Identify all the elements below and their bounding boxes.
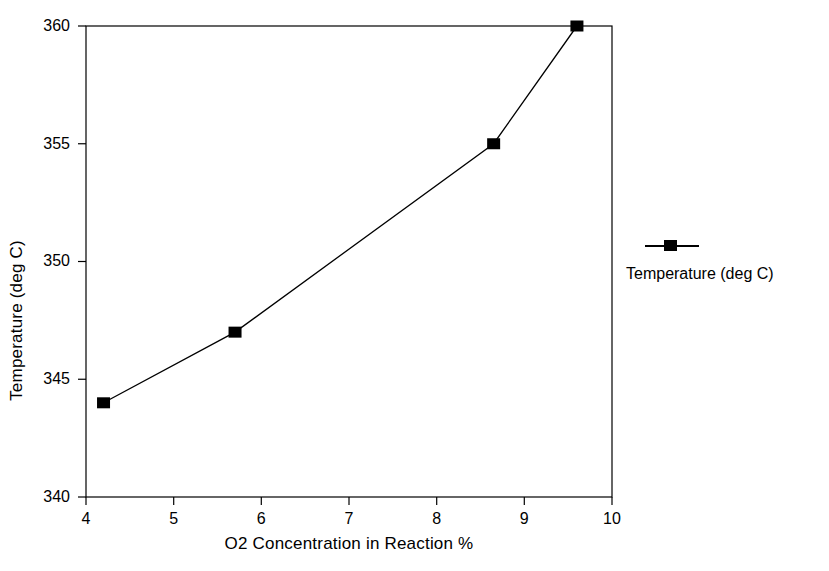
x-tick-label-9: 9 xyxy=(520,510,529,528)
x-tick-label-10: 10 xyxy=(603,510,621,528)
x-tick-label-7: 7 xyxy=(345,510,354,528)
plot-box-border xyxy=(86,26,612,497)
plot-area xyxy=(0,0,829,571)
x-tick-label-6: 6 xyxy=(257,510,266,528)
x-tick-label-5: 5 xyxy=(169,510,178,528)
data-point-marker xyxy=(487,138,500,149)
series-line-temperature xyxy=(104,26,577,403)
square-marker-icon xyxy=(664,240,677,251)
y-axis-ticks xyxy=(78,26,86,497)
series-markers-temperature xyxy=(97,21,583,409)
x-tick-label-8: 8 xyxy=(432,510,441,528)
data-point-marker xyxy=(570,21,583,32)
y-tick-label-360: 360 xyxy=(22,17,70,35)
legend-swatch xyxy=(645,238,699,254)
y-tick-label-355: 355 xyxy=(22,135,70,153)
chart-figure: 360 355 350 345 340 4 5 6 7 8 9 10 Tempe… xyxy=(0,0,829,571)
y-tick-label-345: 345 xyxy=(22,370,70,388)
x-axis-title: O2 Concentration in Reaction % xyxy=(225,534,474,553)
y-tick-label-350: 350 xyxy=(22,252,70,270)
x-tick-label-4: 4 xyxy=(82,510,91,528)
chart-legend: Temperature (deg C) xyxy=(626,238,826,283)
x-axis-ticks xyxy=(86,497,612,505)
data-point-marker xyxy=(97,397,110,408)
data-point-marker xyxy=(229,327,242,338)
x-axis-title-container: O2 Concentration in Reaction % xyxy=(86,534,612,554)
legend-entry-label: Temperature (deg C) xyxy=(626,265,826,283)
y-tick-label-340: 340 xyxy=(22,488,70,506)
